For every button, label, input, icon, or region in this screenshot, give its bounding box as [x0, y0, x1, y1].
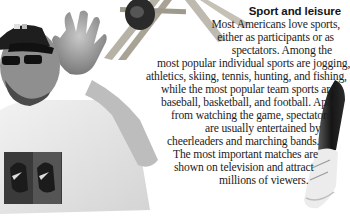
article-line: baseball, basketball, and football. Apar…	[161, 96, 339, 109]
article-line: The most important matches are	[173, 148, 318, 161]
article-line: shown on television and attract	[174, 161, 314, 174]
article-line: most popular individual sports are joggi…	[157, 57, 350, 70]
article-heading: Sport and leisure	[249, 5, 341, 17]
article-line: from watching the game, spectators	[171, 109, 331, 122]
article-line: cheerleaders and marching bands.	[167, 135, 319, 148]
article-line: athletics, skiing, tennis, hunting, and …	[146, 70, 347, 83]
article-line: either as participants or as	[217, 31, 334, 44]
article-line: Most Americans love sports,	[211, 18, 340, 31]
article-line: spectators. Among the	[232, 44, 332, 57]
article-line: millions of viewers.	[219, 174, 308, 187]
article-line: are usually entertained by	[205, 122, 321, 135]
article-line: while the most popular team sports are	[161, 83, 335, 96]
